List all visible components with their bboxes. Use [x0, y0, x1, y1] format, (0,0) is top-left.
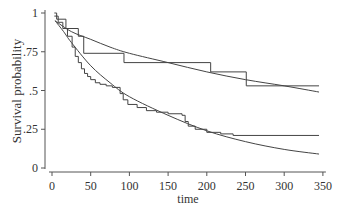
axes: 0.25.5.751050100150200250300350	[23, 6, 332, 193]
x-tick-label: 350	[314, 179, 332, 193]
x-tick-label: 200	[198, 179, 216, 193]
y-tick-label: 0	[32, 161, 38, 175]
x-tick-label: 300	[275, 179, 293, 193]
x-tick-label: 100	[120, 179, 138, 193]
fitted-curve-1	[55, 21, 319, 92]
x-tick-label: 50	[85, 179, 97, 193]
y-tick-label: .75	[23, 45, 38, 59]
y-tick-label: .25	[23, 122, 38, 136]
km-step-curve-0	[54, 13, 319, 86]
plot-area	[54, 13, 319, 154]
chart-canvas: 0.25.5.751050100150200250300350 Survival…	[0, 0, 338, 213]
x-tick-label: 0	[49, 179, 55, 193]
x-axis-label: time	[177, 192, 198, 206]
y-tick-label: 1	[32, 6, 38, 20]
x-tick-label: 150	[159, 179, 177, 193]
x-tick-label: 250	[237, 179, 255, 193]
km-step-curve-2	[54, 16, 319, 135]
y-axis-label: Survival probability	[9, 38, 24, 143]
y-tick-label: .5	[29, 84, 38, 98]
